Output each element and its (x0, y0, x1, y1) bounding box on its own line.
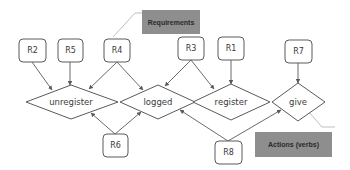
requirement-r2: R2 (19, 39, 46, 62)
requirement-r3-label: R3 (186, 44, 197, 53)
action-logged: logged (120, 85, 195, 119)
edge-r6-logged (115, 112, 141, 134)
requirement-r2-label: R2 (27, 46, 38, 55)
requirement-r7: R7 (285, 40, 312, 63)
requirement-r6: R6 (103, 134, 128, 157)
diagram-canvas: unregister logged register give R2 R5 R4… (0, 0, 350, 170)
action-give: give (272, 83, 325, 121)
requirement-r8: R8 (215, 141, 242, 164)
edge-r3-logged (165, 60, 191, 86)
actions-callout-line (308, 111, 335, 127)
requirements-callout: Requirements (142, 10, 200, 34)
edge-r6-unregister (91, 113, 115, 134)
edge-r3-register (191, 60, 214, 89)
edge-r2-unregister (32, 62, 52, 90)
requirement-r6-label: R6 (110, 141, 121, 150)
requirement-r5-label: R5 (65, 46, 76, 55)
requirement-r7-label: R7 (293, 47, 304, 56)
requirement-r3: R3 (178, 37, 204, 60)
action-register: register (193, 84, 270, 120)
edge-r4-unregister (89, 62, 117, 89)
requirements-callout-line (113, 13, 142, 37)
requirement-r8-label: R8 (223, 148, 234, 157)
requirement-r1-label: R1 (226, 44, 237, 53)
action-give-label: give (289, 97, 307, 107)
actions-callout: Actions (verbs) (255, 132, 332, 157)
requirement-r1: R1 (218, 37, 244, 60)
requirement-r5: R5 (58, 39, 83, 62)
edge-r4-logged (117, 62, 143, 90)
requirements-callout-label: Requirements (148, 19, 195, 27)
action-unregister: unregister (26, 85, 118, 119)
action-unregister-label: unregister (49, 97, 93, 107)
action-logged-label: logged (144, 97, 173, 107)
action-register-label: register (215, 97, 248, 107)
requirement-r4-label: R4 (112, 46, 123, 55)
actions-callout-label: Actions (verbs) (268, 141, 319, 149)
requirement-r4: R4 (104, 39, 130, 62)
